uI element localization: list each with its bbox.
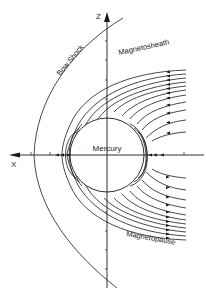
magnetosphere-diagram: Mercury Bow Shock Magnetosheath Magnetop… [0, 0, 206, 293]
z-axis-arrow-icon [104, 12, 110, 22]
bow-shock-label: Bow Shock [55, 43, 86, 78]
z-axis-label: Z [96, 12, 101, 21]
magnetosheath-label: Magnetosheath [118, 37, 170, 57]
magnetopause-label: Magnetopause [126, 229, 176, 246]
x-axis-label: X [11, 160, 17, 169]
mercury-label: Mercury [93, 144, 122, 153]
x-axis-arrow-icon [9, 153, 20, 158]
